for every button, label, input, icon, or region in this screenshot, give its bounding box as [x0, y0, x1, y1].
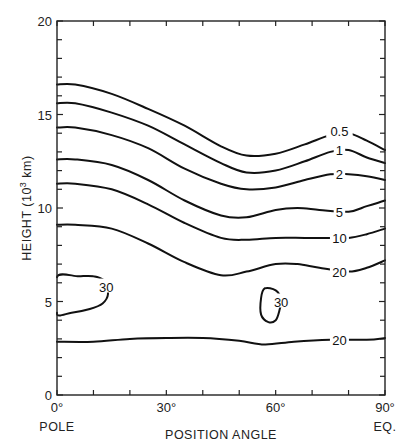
contour-label: 30 — [274, 295, 288, 310]
equator-label: EQ. — [373, 420, 396, 434]
y-tick-label: 15 — [38, 108, 52, 123]
contour-label: 1 — [336, 143, 343, 158]
contour-label: 20 — [332, 265, 346, 280]
x-tick-label: 90° — [375, 400, 395, 415]
x-tick-label: 0° — [51, 400, 63, 415]
pole-label: POLE — [39, 420, 74, 434]
x-axis-title: POSITION ANGLE — [165, 428, 277, 442]
y-tick-label: 5 — [45, 295, 52, 310]
contour-label: 10 — [332, 231, 346, 246]
y-tick-label: 10 — [38, 201, 52, 216]
contour-label: 0.5 — [330, 124, 348, 139]
contour-label: 20 — [332, 333, 346, 348]
contour-chart: 0.51251020303020 051015200°POLE30°60°90°… — [0, 0, 412, 448]
contour-label: 2 — [336, 167, 343, 182]
x-tick-label: 60° — [266, 400, 286, 415]
contour-label: 5 — [336, 205, 343, 220]
tick-labels: 051015200°POLE30°60°90°EQ. — [38, 14, 397, 434]
x-tick-label: 30° — [156, 400, 176, 415]
y-axis-title: HEIGHT (103 km) — [18, 155, 34, 260]
y-tick-label: 20 — [38, 14, 52, 29]
contour-label: 30 — [99, 280, 113, 295]
